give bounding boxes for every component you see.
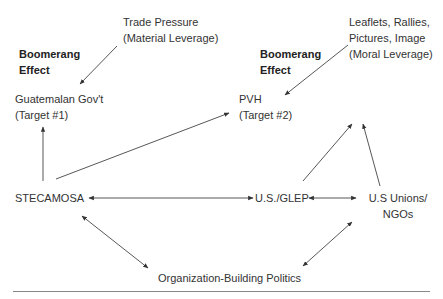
node-label: Boomerang: [260, 46, 321, 62]
edge-glep-to-moral: [303, 124, 352, 181]
bottom-rule-divider: [13, 291, 430, 292]
boomerang-diagram: Trade Pressure (Material Leverage) Boome…: [0, 0, 443, 299]
node-label: Pictures, Image: [349, 30, 433, 46]
node-label: U.S Unions/: [363, 190, 433, 206]
node-label: Leaflets, Rallies,: [349, 14, 433, 30]
node-guatemalan-gov: Guatemalan Gov't (Target #1): [15, 91, 103, 123]
edge-stecamosa-org: [82, 216, 148, 268]
node-us-glep: U.S./GLEP: [255, 190, 309, 206]
node-label: Organization-Building Politics: [158, 270, 301, 286]
node-label: NGOs: [363, 206, 433, 222]
node-organization-building-politics: Organization-Building Politics: [158, 270, 301, 286]
node-pvh: PVH (Target #2): [239, 91, 292, 123]
node-sublabel: (Target #1): [15, 107, 103, 123]
node-label: STECAMOSA: [15, 190, 84, 206]
node-boomerang-effect-left: Boomerang Effect: [19, 46, 80, 78]
node-trade-pressure: Trade Pressure (Material Leverage): [123, 14, 218, 46]
node-moral-leverage: Leaflets, Rallies, Pictures, Image (Mora…: [349, 14, 433, 62]
edge-unions-to-moral: [363, 124, 380, 186]
node-stecamosa: STECAMOSA: [15, 190, 84, 206]
node-sublabel: (Moral Leverage): [349, 46, 433, 62]
node-sublabel: (Target #2): [239, 107, 292, 123]
node-label: PVH: [239, 91, 292, 107]
node-sublabel: (Material Leverage): [123, 30, 218, 46]
node-label: U.S./GLEP: [255, 190, 309, 206]
edge-trade-to-guatemala: [80, 46, 117, 84]
node-label: Boomerang: [19, 46, 80, 62]
node-label: Guatemalan Gov't: [15, 91, 103, 107]
edge-unions-org: [303, 222, 352, 266]
node-boomerang-effect-right: Boomerang Effect: [260, 46, 321, 78]
node-us-unions-ngos: U.S Unions/ NGOs: [363, 190, 433, 222]
node-label: Effect: [260, 62, 321, 78]
node-label: Trade Pressure: [123, 14, 218, 30]
node-label: Effect: [19, 62, 80, 78]
